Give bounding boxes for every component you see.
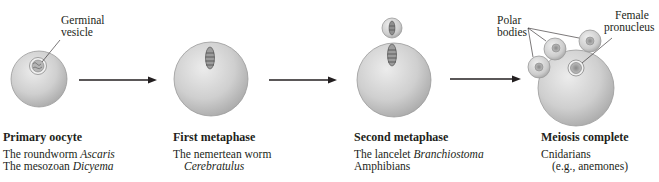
first-metaphase-cell [174, 42, 248, 116]
stage-title-primary-oocyte: Primary oocyte [3, 130, 82, 145]
stage-title-first-metaphase: First metaphase [173, 130, 255, 145]
female-pronucleus [568, 60, 584, 76]
polar-body-2 [544, 38, 566, 60]
mature-egg-cell [528, 28, 614, 126]
meiotic-spindle [206, 47, 215, 69]
stage-title-second-metaphase: Second metaphase [354, 130, 448, 145]
stage-examples-primary-oocyte: The roundworm Ascaris The mesozoan Dicye… [3, 148, 115, 172]
arrow-1 [79, 77, 157, 84]
polar-body-3 [579, 30, 601, 52]
second-metaphase-cell [357, 18, 431, 117]
stage-examples-second-metaphase: The lancelet Branchiostoma Amphibians [354, 148, 484, 172]
stage-examples-first-metaphase: The nemertean worm Cerebratulus [173, 148, 271, 172]
primary-oocyte-cell [11, 40, 67, 107]
meiotic-spindle [388, 44, 397, 66]
stage-examples-meiosis-complete: Cnidarians (e.g., anemones) [541, 148, 628, 172]
first-polar-body [382, 18, 402, 38]
arrow-3 [450, 76, 521, 83]
female-pronucleus-label: Female pronucleus [611, 9, 654, 33]
polar-bodies-label: Polar bodies [497, 14, 527, 38]
germinal-vesicle-label: Germinal vesicle [61, 14, 104, 38]
stage-title-meiosis-complete: Meiosis complete [541, 130, 629, 145]
arrow-2 [269, 77, 337, 84]
polar-body-1 [528, 56, 550, 78]
